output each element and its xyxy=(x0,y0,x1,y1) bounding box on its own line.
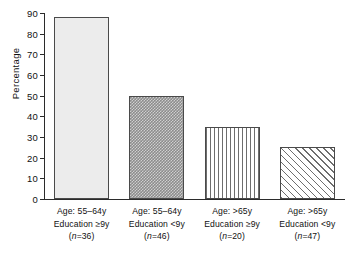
category-label: Age: 55–64yEducation ≥9y(n=36) xyxy=(44,205,119,243)
x-axis-category-labels: Age: 55–64yEducation ≥9y(n=36)Age: 55–64… xyxy=(44,205,345,257)
y-axis-line xyxy=(44,13,45,200)
category-label: Age: 55–64yEducation <9y(n=46) xyxy=(119,205,194,243)
y-tick-label: 60 xyxy=(27,70,38,81)
sample-size-symbol: n xyxy=(297,231,302,241)
plot-area: 0102030405060708090 xyxy=(44,13,345,200)
y-tick-label: 90 xyxy=(27,8,38,19)
category-label: Age: >65yEducation ≥9y(n=20) xyxy=(195,205,270,243)
category-label-line-age: Age: 55–64y xyxy=(44,205,119,218)
y-tick-label: 0 xyxy=(33,194,38,205)
category-label-line-age: Age: >65y xyxy=(195,205,270,218)
category-label-line-age: Age: >65y xyxy=(270,205,345,218)
category-label-line-count: (n=36) xyxy=(44,230,119,243)
category-label: Age: >65yEducation <9y(n=47) xyxy=(270,205,345,243)
y-tick-mark xyxy=(40,158,44,159)
sample-size-symbol: n xyxy=(72,231,77,241)
category-label-line-education: Education ≥9y xyxy=(195,218,270,231)
bar xyxy=(280,147,335,199)
y-tick-label: 70 xyxy=(27,49,38,60)
y-tick-mark xyxy=(40,96,44,97)
category-label-line-education: Education <9y xyxy=(119,218,194,231)
category-label-line-education: Education ≥9y xyxy=(44,218,119,231)
y-tick-mark xyxy=(40,199,44,200)
y-tick-label: 80 xyxy=(27,28,38,39)
y-tick-mark xyxy=(40,178,44,179)
y-tick-mark xyxy=(40,137,44,138)
y-tick-mark xyxy=(40,75,44,76)
bar xyxy=(205,127,260,199)
category-label-line-age: Age: 55–64y xyxy=(119,205,194,218)
bar xyxy=(54,17,109,199)
y-tick-label: 10 xyxy=(27,173,38,184)
category-label-line-count: (n=47) xyxy=(270,230,345,243)
category-label-line-count: (n=46) xyxy=(119,230,194,243)
y-tick-label: 20 xyxy=(27,152,38,163)
sample-size-symbol: n xyxy=(222,231,227,241)
y-axis-label: Percentage xyxy=(10,29,21,119)
category-label-line-education: Education <9y xyxy=(270,218,345,231)
x-axis-line xyxy=(44,199,345,200)
y-tick-label: 30 xyxy=(27,132,38,143)
y-tick-mark xyxy=(40,54,44,55)
bar xyxy=(129,96,184,199)
y-tick-mark xyxy=(40,34,44,35)
bar-chart-figure: Percentage 0102030405060708090 Age: 55–6… xyxy=(0,0,352,257)
y-tick-mark xyxy=(40,116,44,117)
y-tick-mark xyxy=(40,13,44,14)
sample-size-symbol: n xyxy=(147,231,152,241)
y-tick-label: 50 xyxy=(27,90,38,101)
category-label-line-count: (n=20) xyxy=(195,230,270,243)
y-tick-label: 40 xyxy=(27,111,38,122)
